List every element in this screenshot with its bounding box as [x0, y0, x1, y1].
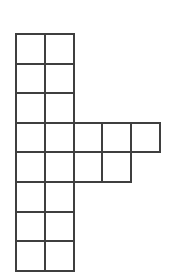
- grid-cell: [15, 92, 46, 124]
- grid-cell: [15, 122, 46, 154]
- grid-cell: [44, 92, 75, 124]
- grid-cell: [44, 211, 75, 243]
- grid-cell: [15, 63, 46, 95]
- grid-cell: [15, 181, 46, 213]
- grid-cell: [101, 151, 132, 183]
- grid-cell: [44, 181, 75, 213]
- grid-cell: [101, 122, 132, 154]
- grid-cell: [44, 151, 75, 183]
- grid-cell: [15, 151, 46, 183]
- grid-cell: [15, 33, 46, 65]
- grid-cell: [44, 63, 75, 95]
- grid-cell: [73, 122, 104, 154]
- grid-cell: [44, 122, 75, 154]
- grid-cell: [15, 240, 46, 272]
- polyomino-figure: [0, 0, 172, 277]
- grid-cell: [44, 33, 75, 65]
- grid-cell: [130, 122, 161, 154]
- grid-cell: [73, 151, 104, 183]
- grid-cell: [15, 211, 46, 243]
- grid-cell: [44, 240, 75, 272]
